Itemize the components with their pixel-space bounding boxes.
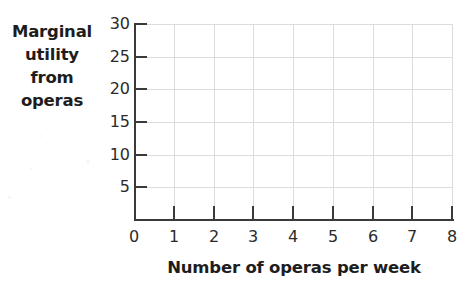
gridline-vertical — [452, 24, 453, 220]
y-axis-title-line-4: operas — [4, 89, 100, 112]
gridline-vertical — [333, 24, 334, 220]
gridline-vertical — [373, 24, 374, 220]
gridline-vertical — [412, 24, 413, 220]
y-axis-tick-label: 15 — [96, 114, 130, 130]
x-axis-tick-label: 8 — [437, 228, 467, 246]
scan-speckle — [8, 196, 11, 199]
plot-area — [134, 24, 452, 220]
x-axis-tick — [213, 206, 215, 220]
gridline-vertical — [253, 24, 254, 220]
scan-speckle — [86, 160, 90, 163]
x-axis-tick — [372, 206, 374, 220]
y-axis-tick-label: 30 — [96, 16, 130, 32]
x-axis-tick-label: 7 — [397, 228, 427, 246]
y-axis-tick-label: 10 — [96, 147, 130, 163]
x-axis-tick — [411, 206, 413, 220]
scan-speckle — [40, 135, 42, 137]
y-axis-title-line-1: Marginal — [4, 20, 100, 43]
x-axis-title: Number of operas per week — [134, 258, 454, 277]
y-axis-title: Marginal utility from operas — [4, 20, 100, 112]
y-axis-tick-label: 25 — [96, 49, 130, 65]
x-axis-tick-label: 6 — [358, 228, 388, 246]
y-axis-title-line-3: from — [4, 66, 100, 89]
gridline-vertical — [214, 24, 215, 220]
x-axis-tick — [173, 206, 175, 220]
x-axis-tick — [252, 206, 254, 220]
x-axis-tick — [451, 206, 453, 220]
x-axis-tick-label: 4 — [278, 228, 308, 246]
x-axis-tick-label: 5 — [318, 228, 348, 246]
gridline-vertical — [174, 24, 175, 220]
x-axis-tick-label: 2 — [199, 228, 229, 246]
chart-figure: Marginal utility from operas 51015202530… — [0, 0, 474, 297]
x-axis-tick-label: 0 — [119, 228, 149, 246]
x-axis-tick-label: 1 — [159, 228, 189, 246]
y-axis-tick-label: 20 — [96, 81, 130, 97]
y-axis-tick-label: 5 — [96, 179, 130, 195]
y-axis-tick-labels: 51015202530 — [96, 0, 130, 297]
scan-speckle — [30, 168, 32, 170]
y-axis-line — [134, 23, 136, 221]
y-axis-title-line-2: utility — [4, 43, 100, 66]
x-axis-line — [134, 219, 454, 221]
gridline-vertical — [293, 24, 294, 220]
x-axis-tick — [292, 206, 294, 220]
x-axis-tick-labels: 012345678 — [0, 228, 474, 250]
x-axis-tick-label: 3 — [238, 228, 268, 246]
x-axis-tick — [332, 206, 334, 220]
